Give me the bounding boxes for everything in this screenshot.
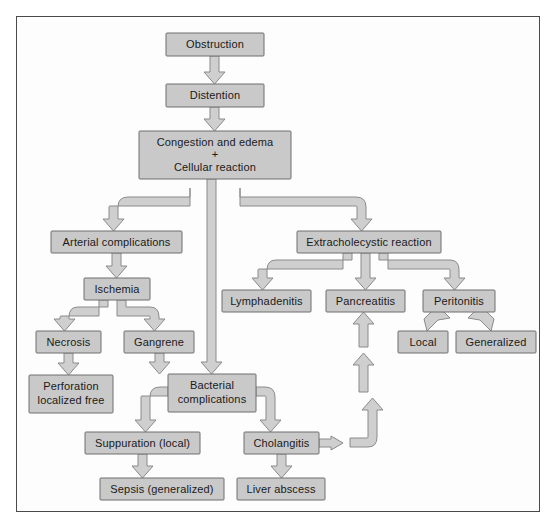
node-distention[interactable]: Distention [166,84,264,107]
edge-cholangitis-feedback-h [319,436,343,450]
node-peritonitis-label: Peritonitis [434,295,484,307]
node-ischemia-label: Ischemia [94,283,140,295]
node-arterial-complications[interactable]: Arterial complications [51,231,182,253]
edge-obstruction-distention [204,56,225,84]
edge-extracholecystic-lymphadenitis [252,253,352,290]
edge-bacterial-cholangitis [256,387,281,432]
node-sepsis-label: Sepsis (generalized) [110,483,213,495]
node-pancreatitis-label: Pancreatitis [336,295,396,307]
node-extracholecystic-reaction[interactable]: Extracholecystic reaction [297,231,441,253]
node-local[interactable]: Local [398,331,448,353]
node-distention-label: Distention [190,89,240,101]
node-bacterial-complications-label-line1: Bacterial [190,379,234,391]
edge-ischemia-necrosis [54,300,108,331]
connector-layer [54,56,494,478]
node-pancreatitis[interactable]: Pancreatitis [326,290,405,312]
node-congestion-cellular-reaction[interactable]: Congestion and edema + Cellular reaction [139,131,291,179]
node-liver-abscess-label: Liver abscess [246,483,316,495]
node-suppuration-label: Suppuration (local) [95,437,190,449]
node-generalized-label: Generalized [466,336,527,348]
node-ischemia[interactable]: Ischemia [84,278,150,300]
node-peritonitis[interactable]: Peritonitis [423,290,495,312]
node-congestion-label-line1: Congestion and edema [157,136,274,148]
edge-extracholecystic-pancreatitis [355,253,376,290]
edge-feedback-mid-arrow [353,353,374,392]
edge-congestion-extracholecystic [240,188,372,231]
edge-distention-congestion [204,107,225,131]
node-bacterial-complications[interactable]: Bacterial complications [168,374,256,412]
edge-necrosis-perforation [58,353,79,375]
node-extracholecystic-reaction-label: Extracholecystic reaction [306,236,431,248]
node-congestion-label-line2: + [212,148,219,160]
edge-gangrene-bacterial [149,353,170,374]
node-sepsis[interactable]: Sepsis (generalized) [100,478,224,500]
edge-congestion-bacterial [201,179,222,374]
node-local-label: Local [409,336,436,348]
node-gangrene-label: Gangrene [134,336,184,348]
node-cholangitis[interactable]: Cholangitis [244,432,319,454]
node-suppuration[interactable]: Suppuration (local) [85,432,200,454]
node-generalized[interactable]: Generalized [456,331,536,353]
edge-peritonitis-local [424,310,450,331]
edge-arterial-ischemia [106,253,127,278]
edge-suppuration-sepsis [132,454,153,478]
node-obstruction-label: Obstruction [186,38,244,50]
edge-feedback-top-arrow [353,312,374,347]
node-perforation[interactable]: Perforation localized free [29,375,113,413]
node-gangrene[interactable]: Gangrene [124,331,194,353]
node-necrosis[interactable]: Necrosis [36,331,101,353]
edge-cholangitis-feedback-curve [350,398,383,447]
flowchart-diagram: Obstruction Distention Congestion and ed… [0,0,555,530]
node-cholangitis-label: Cholangitis [253,437,309,449]
edge-ischemia-gangrene [117,300,165,331]
node-lymphadenitis[interactable]: Lymphadenitis [222,290,311,312]
node-arterial-complications-label: Arterial complications [63,236,171,248]
flowchart-canvas: Obstruction Distention Congestion and ed… [0,0,555,530]
node-obstruction[interactable]: Obstruction [166,33,264,56]
node-congestion-label-line3: Cellular reaction [174,161,256,173]
node-bacterial-complications-label-line2: complications [178,393,247,405]
node-necrosis-label: Necrosis [47,336,91,348]
node-perforation-label-line1: Perforation [43,380,98,392]
edge-cholangitis-liverabscess [271,454,292,478]
edge-extracholecystic-peritonitis [379,253,465,290]
edge-congestion-arterial [103,188,190,231]
node-liver-abscess[interactable]: Liver abscess [237,478,325,500]
edge-bacterial-suppuration [135,387,168,432]
node-perforation-label-line2: localized free [38,394,105,406]
node-lymphadenitis-label: Lymphadenitis [230,295,303,307]
edge-peritonitis-generalized [468,310,494,331]
